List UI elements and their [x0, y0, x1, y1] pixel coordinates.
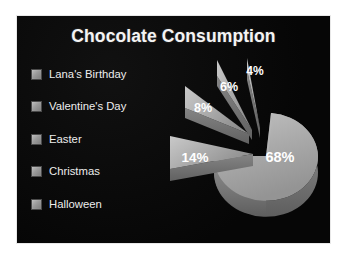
legend-swatch-icon	[31, 101, 42, 112]
pie-label-second: 14%	[181, 150, 208, 165]
legend-item-label: Easter	[49, 134, 82, 145]
legend-swatch-icon	[31, 69, 42, 80]
legend-item-label: Valentine's Day	[49, 101, 126, 112]
pie-chart: 68% 14% 8% 6% 4%	[167, 50, 330, 235]
legend-swatch-icon	[31, 134, 42, 145]
pie-label-main: 68%	[265, 149, 294, 165]
chart-panel: Chocolate Consumption Lana's Birthday Va…	[17, 16, 330, 243]
pie-label-fourth: 6%	[220, 80, 238, 94]
legend-item-christmas[interactable]: Christmas	[31, 156, 166, 189]
legend-item-label: Christmas	[49, 166, 100, 177]
legend-item-easter[interactable]: Easter	[31, 123, 166, 156]
pie-label-third: 8%	[194, 101, 212, 115]
image-canvas: Chocolate Consumption Lana's Birthday Va…	[0, 0, 350, 253]
legend-item-label: Halloween	[49, 199, 102, 210]
legend-swatch-icon	[31, 199, 42, 210]
chart-title: Chocolate Consumption	[17, 26, 330, 47]
pie-label-fifth: 4%	[246, 64, 264, 78]
chart-legend: Lana's Birthday Valentine's Day Easter C…	[31, 58, 166, 221]
legend-item-halloween[interactable]: Halloween	[31, 188, 166, 221]
legend-swatch-icon	[31, 166, 42, 177]
pie-chart-svg: 68% 14% 8% 6% 4%	[167, 50, 330, 235]
legend-item-lanas-birthday[interactable]: Lana's Birthday	[31, 58, 166, 91]
legend-item-label: Lana's Birthday	[49, 69, 127, 80]
legend-item-valentines-day[interactable]: Valentine's Day	[31, 91, 166, 124]
